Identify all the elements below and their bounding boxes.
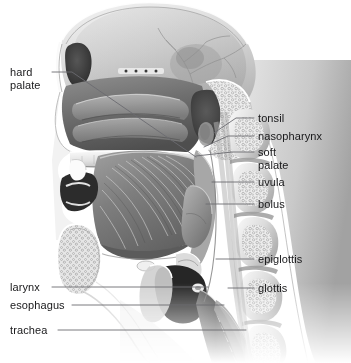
label-soft-palate: soft palate: [258, 146, 289, 171]
label-uvula: uvula: [258, 176, 285, 189]
label-bolus: bolus: [258, 198, 285, 211]
label-epiglottis: epiglottis: [258, 253, 302, 266]
label-larynx: larynx: [10, 281, 40, 294]
label-hard-palate: hard palate: [10, 66, 41, 91]
label-tonsil: tonsil: [258, 112, 284, 125]
label-trachea: trachea: [10, 324, 47, 337]
label-glottis: glottis: [258, 282, 287, 295]
anatomy-figure: hard palatelarynxesophagustracheatonsiln…: [0, 0, 351, 363]
label-esophagus: esophagus: [10, 299, 65, 312]
label-nasopharynx: nasopharynx: [258, 130, 322, 143]
